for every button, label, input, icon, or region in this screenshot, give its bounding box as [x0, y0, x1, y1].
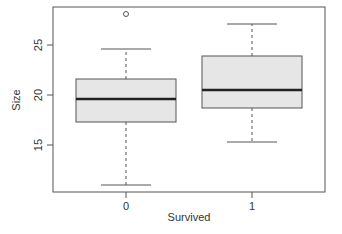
- y-tick-label: 20: [32, 89, 44, 101]
- iqr-box: [76, 79, 176, 122]
- y-axis: 152025: [32, 39, 53, 151]
- box-group-1: [202, 24, 302, 142]
- outlier-point: [124, 12, 129, 17]
- y-tick-label: 15: [32, 139, 44, 151]
- y-axis-label: Size: [10, 89, 22, 110]
- x-tick-label: 1: [249, 200, 255, 212]
- x-axis: 01: [123, 192, 255, 212]
- boxes: [76, 12, 302, 186]
- iqr-box: [202, 56, 302, 108]
- y-tick-label: 25: [32, 39, 44, 51]
- boxplot-chart: 152025 01 Survived Size: [0, 0, 342, 234]
- x-axis-label: Survived: [168, 211, 211, 223]
- box-group-0: [76, 12, 176, 186]
- x-tick-label: 0: [123, 200, 129, 212]
